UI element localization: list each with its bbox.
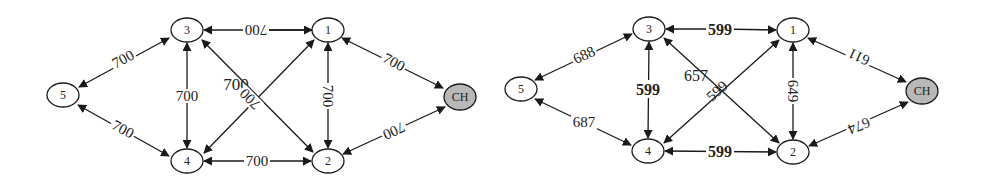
edge-label-3-4: 599: [636, 81, 660, 98]
svg-text:1: 1: [325, 23, 331, 37]
svg-text:5: 5: [518, 82, 524, 96]
node-ch: CH: [906, 78, 938, 104]
node-4: 4: [171, 149, 203, 173]
svg-text:4: 4: [645, 144, 651, 158]
edge-label-3-2: 657: [684, 67, 708, 84]
node-5: 5: [505, 77, 537, 101]
svg-text:1: 1: [790, 23, 796, 37]
edge-label-4-2: 700: [246, 153, 269, 169]
node-3: 3: [633, 17, 665, 41]
node-4: 4: [632, 139, 664, 163]
edge-label-3-4: 700: [176, 88, 199, 104]
edge-labels-right: 688 687 599 599 599 657 649 599 611 674: [569, 20, 873, 160]
svg-text:3: 3: [184, 23, 190, 37]
node-2: 2: [312, 149, 344, 173]
node-1: 1: [312, 18, 344, 42]
edge-label-1-3: 599: [708, 21, 732, 38]
node-5: 5: [47, 83, 79, 107]
edge-label-1-3: 700: [245, 22, 268, 38]
right-graph: 688 687 599 599 599 657 649 599 611 674 …: [505, 17, 938, 164]
node-3: 3: [171, 18, 203, 42]
node-2: 2: [777, 140, 809, 164]
edge-label-1-2: 649: [785, 80, 801, 103]
svg-text:4: 4: [184, 154, 190, 168]
node-ch: CH: [444, 84, 476, 110]
svg-text:CH: CH: [914, 84, 931, 98]
edge-label-4-2: 599: [708, 143, 732, 160]
svg-text:5: 5: [60, 88, 66, 102]
svg-text:3: 3: [646, 22, 652, 36]
node-1: 1: [777, 18, 809, 42]
svg-text:2: 2: [325, 154, 331, 168]
edge-label-1-2: 700: [320, 85, 336, 108]
network-diagrams: 700 700 700 700 700 700 700 700 700 700 …: [0, 0, 982, 183]
left-graph: 700 700 700 700 700 700 700 700 700 700 …: [47, 18, 476, 173]
edge-label-5-4: 687: [573, 114, 596, 130]
svg-text:CH: CH: [452, 90, 469, 104]
svg-text:2: 2: [790, 145, 796, 159]
